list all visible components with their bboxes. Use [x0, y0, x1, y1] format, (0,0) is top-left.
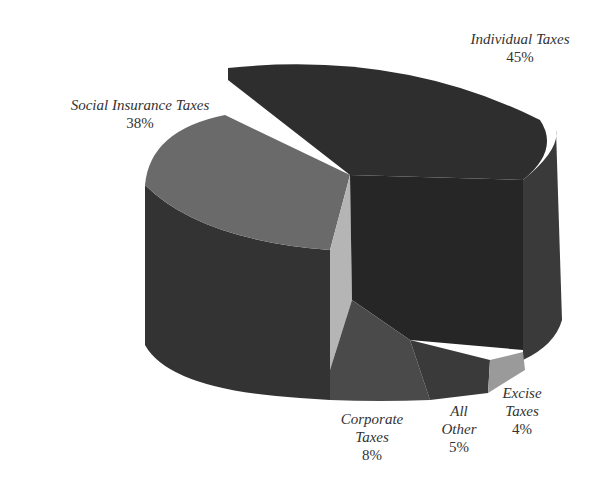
- label-individual: Individual Taxes 45%: [445, 30, 595, 66]
- label-all-other: All Other 5%: [434, 402, 484, 456]
- label-corporate: Corporate Taxes 8%: [332, 410, 412, 464]
- label-excise: Excise Taxes 4%: [492, 384, 552, 438]
- label-social: Social Insurance Taxes 38%: [25, 96, 255, 132]
